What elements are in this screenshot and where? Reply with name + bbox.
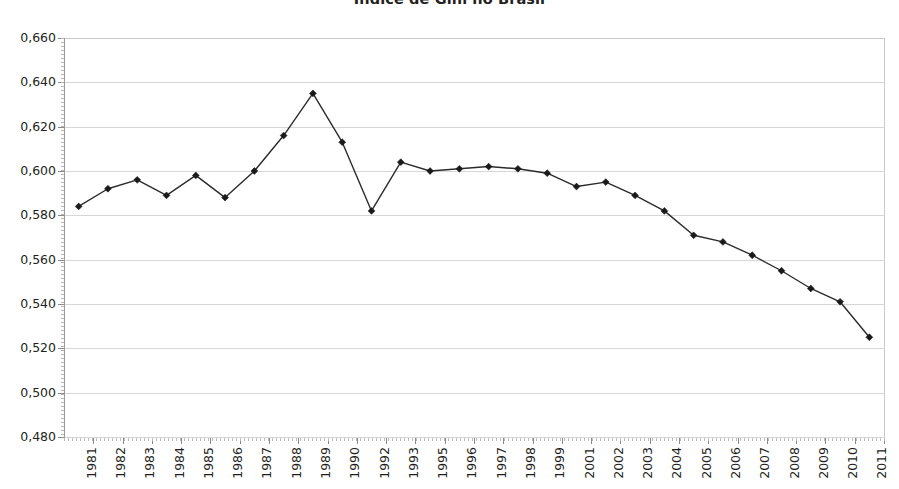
x-minor-tick: [512, 438, 513, 441]
y-tick-label: 0,640: [0, 74, 56, 89]
y-minor-tick: [61, 390, 64, 391]
y-minor-tick: [61, 338, 64, 339]
x-minor-tick: [388, 438, 389, 441]
x-minor-tick: [204, 438, 205, 441]
x-minor-tick: [64, 438, 65, 441]
x-minor-tick: [288, 438, 289, 441]
y-minor-tick: [61, 106, 64, 107]
x-minor-tick: [844, 438, 845, 441]
y-minor-tick: [61, 226, 64, 227]
x-minor-tick: [152, 438, 153, 441]
x-minor-tick: [564, 438, 565, 441]
x-minor-tick: [220, 438, 221, 441]
x-minor-tick: [384, 438, 385, 441]
y-minor-tick: [61, 94, 64, 95]
x-minor-tick: [568, 438, 569, 441]
x-minor-tick: [876, 438, 877, 441]
y-minor-tick: [61, 174, 64, 175]
y-minor-tick: [61, 214, 64, 215]
y-minor-tick: [61, 426, 64, 427]
y-minor-tick: [61, 434, 64, 435]
y-minor-tick: [61, 314, 64, 315]
x-minor-tick: [696, 438, 697, 441]
x-minor-tick: [604, 438, 605, 441]
x-minor-tick: [164, 438, 165, 441]
x-minor-tick: [548, 438, 549, 441]
y-minor-tick: [61, 318, 64, 319]
x-minor-tick: [684, 438, 685, 441]
x-minor-tick: [264, 438, 265, 441]
x-minor-tick: [240, 438, 241, 441]
x-tick-label: 2009: [816, 447, 831, 479]
y-minor-tick: [61, 142, 64, 143]
x-minor-tick: [640, 438, 641, 441]
y-minor-tick: [61, 66, 64, 67]
x-minor-tick: [828, 438, 829, 441]
x-minor-tick: [120, 438, 121, 441]
y-minor-tick: [61, 230, 64, 231]
x-minor-tick: [808, 438, 809, 441]
x-tick-label: 1986: [230, 447, 245, 479]
y-tick-mark: [58, 171, 64, 172]
x-minor-tick: [360, 438, 361, 441]
y-minor-tick: [61, 374, 64, 375]
x-minor-tick: [464, 438, 465, 441]
x-minor-tick: [308, 438, 309, 441]
y-minor-tick: [61, 266, 64, 267]
y-minor-tick: [61, 126, 64, 127]
x-minor-tick: [712, 438, 713, 441]
x-minor-tick: [400, 438, 401, 441]
x-minor-tick: [272, 438, 273, 441]
x-minor-tick: [644, 438, 645, 441]
x-minor-tick: [500, 438, 501, 441]
x-minor-tick: [144, 438, 145, 441]
x-minor-tick: [536, 438, 537, 441]
y-tick-mark: [58, 437, 64, 438]
x-minor-tick: [256, 438, 257, 441]
x-minor-tick: [72, 438, 73, 441]
y-minor-tick: [61, 194, 64, 195]
x-minor-tick: [836, 438, 837, 441]
x-minor-tick: [508, 438, 509, 441]
x-minor-tick: [676, 438, 677, 441]
y-minor-tick: [61, 42, 64, 43]
x-minor-tick: [520, 438, 521, 441]
x-minor-tick: [764, 438, 765, 441]
x-minor-tick: [336, 438, 337, 441]
y-tick-mark: [58, 304, 64, 305]
x-minor-tick: [380, 438, 381, 441]
x-minor-tick: [632, 438, 633, 441]
y-minor-tick: [61, 410, 64, 411]
y-minor-tick: [61, 178, 64, 179]
x-minor-tick: [420, 438, 421, 441]
x-minor-tick: [396, 438, 397, 441]
gridline: [65, 393, 885, 394]
y-minor-tick: [61, 290, 64, 291]
y-minor-tick: [61, 302, 64, 303]
x-minor-tick: [408, 438, 409, 441]
y-minor-tick: [61, 262, 64, 263]
x-minor-tick: [528, 438, 529, 441]
x-minor-tick: [552, 438, 553, 441]
chart-title: Índice de Gini no Brasil: [0, 0, 899, 7]
y-minor-tick: [61, 350, 64, 351]
x-minor-tick: [656, 438, 657, 441]
x-minor-tick: [768, 438, 769, 441]
y-minor-tick: [61, 218, 64, 219]
x-minor-tick: [80, 438, 81, 441]
x-minor-tick: [424, 438, 425, 441]
x-minor-tick: [76, 438, 77, 441]
x-minor-tick: [176, 438, 177, 441]
x-minor-tick: [516, 438, 517, 441]
x-minor-tick: [132, 438, 133, 441]
y-minor-tick: [61, 82, 64, 83]
x-minor-tick: [584, 438, 585, 441]
y-minor-tick: [61, 182, 64, 183]
x-tick-label: 1993: [406, 447, 421, 479]
x-minor-tick: [540, 438, 541, 441]
x-minor-tick: [736, 438, 737, 441]
x-minor-tick: [728, 438, 729, 441]
x-minor-tick: [84, 438, 85, 441]
x-tick-label: 1982: [113, 447, 128, 479]
gridline: [65, 171, 885, 172]
